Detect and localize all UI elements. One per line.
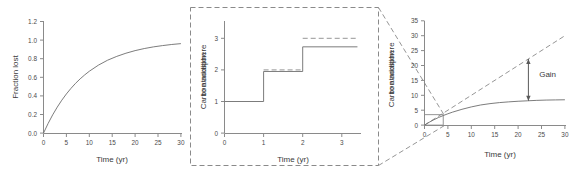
panel3-cumulative-dashed-line bbox=[425, 36, 565, 125]
panel3-xtick-2: 10 bbox=[468, 131, 476, 138]
panel3-ytick-4: 20 bbox=[411, 62, 419, 69]
panel1-ytick-3: 0.6 bbox=[28, 74, 37, 81]
panel2-ytick-2: 2 bbox=[214, 66, 218, 73]
panel3-x-ticks bbox=[425, 126, 565, 130]
panel1-xtick-4: 20 bbox=[132, 139, 140, 146]
panel3-ytick-7: 35 bbox=[411, 17, 419, 24]
panel2-xtick-1: 1 bbox=[262, 139, 266, 146]
panel1-ytick-1: 0.2 bbox=[28, 111, 37, 118]
panel1-curve-fraction-lost bbox=[44, 44, 181, 133]
figure-three-panel-carbon: 1.2 1.0 0.8 0.6 0.4 0.2 0.0 0 5 10 15 20… bbox=[0, 0, 573, 173]
panel3-gain-arrow bbox=[526, 59, 530, 101]
panel2-y-axis-title-l2: to atmosphere bbox=[199, 44, 208, 96]
panel1-xtick-5: 25 bbox=[154, 139, 162, 146]
panel1-ytick-5: 1.0 bbox=[28, 37, 37, 44]
panel1-xtick-3: 15 bbox=[109, 139, 117, 146]
panel-carbon-gain: 0 5 10 15 20 25 30 35 0 5 10 15 20 25 bbox=[380, 0, 573, 173]
panel3-ytick-1: 5 bbox=[414, 107, 418, 114]
panel3-xtick-3: 15 bbox=[491, 131, 499, 138]
panel3-svg: 0 5 10 15 20 25 30 35 0 5 10 15 20 25 bbox=[380, 0, 573, 173]
panel3-x-axis-title: Time (yr) bbox=[484, 150, 516, 159]
panel1-ytick-0: 0.0 bbox=[28, 130, 37, 137]
panel2-step-curve bbox=[225, 47, 358, 102]
panel2-ytick-0: 0 bbox=[214, 130, 218, 137]
panel2-zoom-box bbox=[191, 8, 379, 166]
panel1-xtick-0: 0 bbox=[42, 139, 46, 146]
panel-carbon-steps: 0 1 2 3 0 1 2 3 Time (yr) Carbon additio… bbox=[186, 0, 386, 173]
panel3-ytick-5: 25 bbox=[411, 47, 419, 54]
panel3-ytick-2: 10 bbox=[411, 92, 419, 99]
panel2-xtick-3: 3 bbox=[340, 139, 344, 146]
panel2-svg: 0 1 2 3 0 1 2 3 Time (yr) Carbon additio… bbox=[186, 0, 386, 173]
panel2-dashed-levels bbox=[264, 38, 358, 70]
panel2-x-axis-title: Time (yr) bbox=[277, 155, 309, 164]
panel1-x-ticks bbox=[44, 134, 181, 138]
panel-fraction-lost: 1.2 1.0 0.8 0.6 0.4 0.2 0.0 0 5 10 15 20… bbox=[0, 0, 190, 173]
panel1-y-axis-title: Fraction lost bbox=[11, 54, 20, 98]
gain-label: Gain bbox=[539, 70, 556, 79]
panel3-y-axis-title-l2: to atmosphere bbox=[387, 42, 396, 94]
panel1-ytick-2: 0.4 bbox=[28, 92, 37, 99]
panel2-ytick-1: 1 bbox=[214, 98, 218, 105]
panel3-xtick-0: 0 bbox=[423, 131, 427, 138]
gain-arrow-head-bottom bbox=[526, 96, 530, 101]
panel3-xtick-1: 5 bbox=[446, 131, 450, 138]
panel2-ytick-3: 3 bbox=[214, 35, 218, 42]
panel1-xtick-1: 5 bbox=[65, 139, 69, 146]
panel1-ytick-4: 0.8 bbox=[28, 55, 37, 62]
panel3-xtick-5: 25 bbox=[538, 131, 546, 138]
panel1-y-ticks bbox=[40, 22, 44, 134]
panel3-ytick-3: 15 bbox=[411, 77, 419, 84]
panel2-xtick-0: 0 bbox=[223, 139, 227, 146]
panel1-ytick-6: 1.2 bbox=[28, 18, 37, 25]
panel3-atmospheric-curve bbox=[425, 100, 565, 125]
panel3-y-axis-title: Carbon addition to atmosphere bbox=[387, 42, 396, 107]
panel1-xtick-6: 30 bbox=[177, 139, 185, 146]
panel3-xtick-4: 20 bbox=[515, 131, 523, 138]
panel1-x-axis-title: Time (yr) bbox=[96, 155, 128, 164]
panel3-xtick-6: 30 bbox=[561, 131, 569, 138]
panel3-y-ticks bbox=[421, 21, 425, 125]
panel2-y-ticks bbox=[221, 38, 225, 133]
panel2-x-ticks bbox=[225, 134, 342, 138]
panel2-xtick-2: 2 bbox=[301, 139, 305, 146]
panel1-svg: 1.2 1.0 0.8 0.6 0.4 0.2 0.0 0 5 10 15 20… bbox=[0, 0, 190, 173]
panel3-ytick-0: 0 bbox=[414, 122, 418, 129]
panel3-ytick-6: 30 bbox=[411, 32, 419, 39]
panel1-xtick-2: 10 bbox=[86, 139, 94, 146]
panel2-y-axis-title: Carbon addition to atmosphere bbox=[199, 44, 208, 109]
